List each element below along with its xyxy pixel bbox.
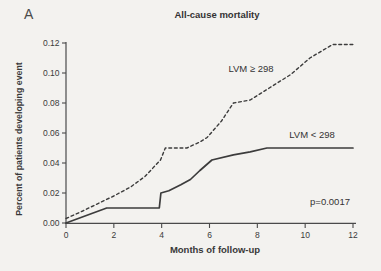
x-tick-label: 0 <box>64 230 69 240</box>
series-curve-lvm-low <box>66 148 353 223</box>
y-tick-label: 0.06 <box>43 128 60 138</box>
x-tick-label: 10 <box>300 230 310 240</box>
y-tick-label: 0.10 <box>43 68 60 78</box>
x-tick-label: 4 <box>159 230 164 240</box>
y-tick-label: 0.04 <box>43 158 60 168</box>
x-tick-label: 6 <box>207 230 212 240</box>
y-tick-label: 0.00 <box>43 218 60 228</box>
y-tick-label: 0.08 <box>43 98 60 108</box>
y-tick-label: 0.02 <box>43 188 60 198</box>
series-label-lvm-low: LVM < 298 <box>289 129 335 140</box>
p-value-annotation: p=0.0017 <box>310 196 350 207</box>
x-tick-label: 8 <box>255 230 260 240</box>
x-tick-label: 2 <box>111 230 116 240</box>
series-label-lvm-high: LVM ≥ 298 <box>228 63 273 74</box>
x-tick-label: 12 <box>348 230 358 240</box>
y-tick-label: 0.12 <box>43 38 60 48</box>
mortality-chart-figure: A All-cause mortality Percent of patient… <box>0 0 381 271</box>
